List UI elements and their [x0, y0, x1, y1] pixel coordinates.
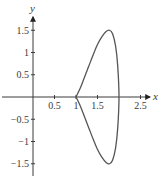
- y-tick-label: 0.5: [17, 69, 30, 80]
- x-axis-label: x: [152, 90, 158, 102]
- y-tick-label: −1.5: [11, 158, 29, 169]
- y-tick-label: −1: [18, 136, 29, 147]
- y-tick-label: 1: [24, 47, 29, 58]
- x-tick-label: 2.5: [134, 100, 147, 111]
- y-axis-label: y: [29, 2, 35, 14]
- y-tick-label: −0.5: [11, 114, 29, 125]
- x-tick-label: 1.5: [91, 100, 104, 111]
- y-tick-label: 1.5: [17, 25, 30, 36]
- x-tick-label: 0.5: [48, 100, 61, 111]
- parametric-curve-chart: 0.511.52.51.510.5−0.5−1−1.5 x y: [0, 0, 163, 180]
